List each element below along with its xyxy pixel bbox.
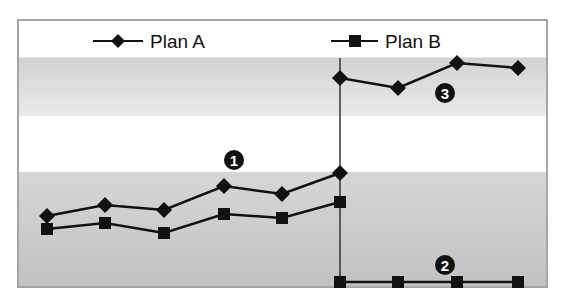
svg-text:2: 2 <box>441 257 449 274</box>
callout-badge-1: 1 <box>224 150 244 170</box>
svg-text:1: 1 <box>230 152 238 169</box>
callout-badge-3: 3 <box>435 83 455 103</box>
plot-area <box>18 20 547 287</box>
square-marker-icon <box>349 35 361 47</box>
callout-badge-2: 2 <box>435 255 455 275</box>
svg-text:3: 3 <box>441 85 449 102</box>
line-chart: Plan A Plan B <box>0 0 563 302</box>
legend-label-plan-b: Plan B <box>385 31 441 52</box>
legend-label-plan-a: Plan A <box>150 31 205 52</box>
